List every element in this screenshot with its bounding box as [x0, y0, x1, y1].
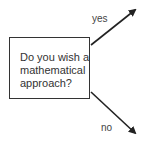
yes-label: yes [92, 13, 108, 24]
decision-question: Do you wish a mathematical approach? [20, 51, 90, 90]
no-label: no [101, 122, 112, 133]
question-line-3: approach? [20, 77, 90, 90]
question-line-1: Do you wish a [20, 51, 90, 64]
question-line-2: mathematical [20, 64, 90, 77]
no-arrow [91, 92, 135, 133]
